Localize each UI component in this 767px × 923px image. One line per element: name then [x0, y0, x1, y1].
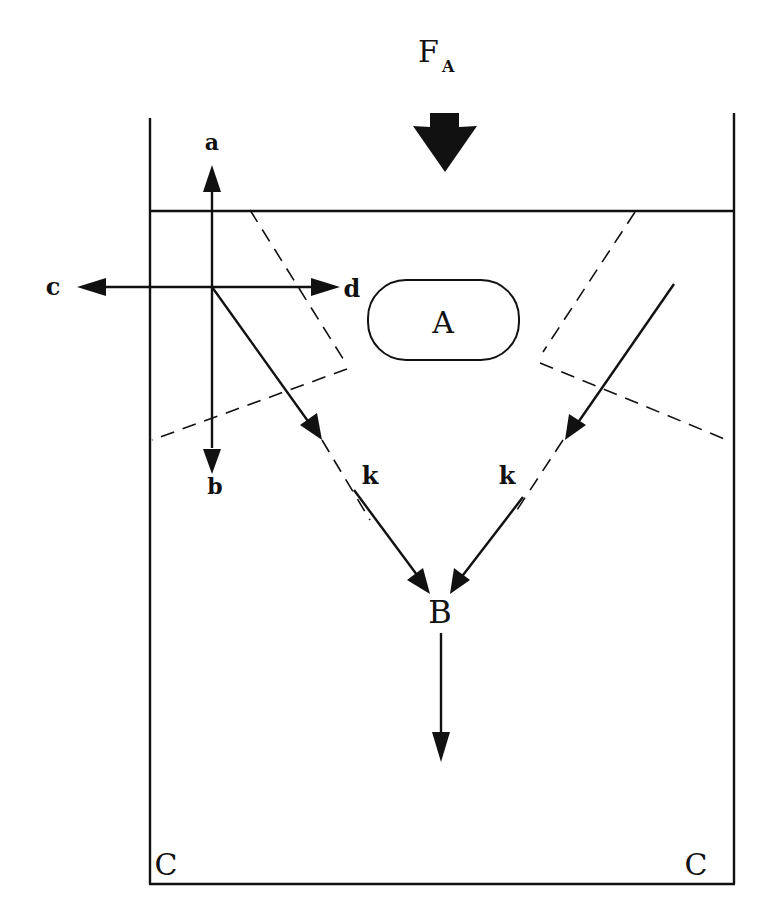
force-subscript: A — [441, 57, 455, 76]
point-b-label: B — [428, 593, 452, 631]
converge-right-line — [460, 497, 523, 579]
label-b: b — [207, 473, 222, 499]
label-d: d — [344, 274, 361, 303]
corner-right-label: C — [685, 847, 708, 882]
arrow-diagonal-left-icon — [300, 413, 322, 440]
arrow-left-icon — [77, 278, 106, 296]
channel-left-label: k — [362, 461, 380, 490]
label-a: a — [205, 129, 219, 155]
diagonal-flow-right — [577, 284, 674, 424]
label-c: c — [46, 272, 61, 301]
converge-left-line — [354, 490, 420, 579]
arrow-to-b-left-icon — [407, 568, 430, 594]
flow-diagram: F A A a b c d k k B C C — [0, 0, 767, 923]
arrow-diagonal-right-icon — [565, 414, 586, 440]
arrow-down-icon — [203, 449, 221, 474]
diagonal-flow-left — [212, 287, 310, 424]
arrow-up-icon — [203, 165, 221, 192]
force-label: F — [418, 34, 439, 69]
channel-right-label: k — [499, 461, 517, 490]
force-arrow-icon — [413, 113, 477, 172]
arrow-right-icon — [311, 278, 340, 296]
region-a-label: A — [431, 305, 454, 340]
arrow-outflow-icon — [432, 732, 450, 762]
corner-left-label: C — [155, 847, 178, 882]
dashed-boundary-right-upper — [543, 212, 635, 352]
arrow-to-b-right-icon — [450, 568, 470, 594]
dashed-channel-right — [515, 440, 563, 513]
